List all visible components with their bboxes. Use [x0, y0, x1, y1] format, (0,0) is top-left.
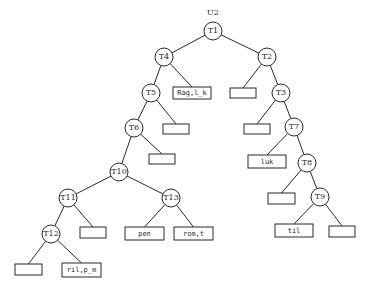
edge-t2-t3 [270, 65, 277, 84]
edge-t9-l_t9b [325, 204, 342, 226]
leaf-label: ril,p_m [62, 265, 101, 275]
edge-t11-t12 [55, 206, 64, 226]
leaf-box-l_t3 [244, 124, 270, 134]
leaf-label: luk [248, 157, 286, 167]
edge-t5-t6 [138, 101, 147, 120]
edge-t8-t9 [310, 171, 317, 188]
edge-t6-t10 [122, 137, 131, 164]
edge-t3-l_t3 [257, 100, 275, 124]
tree-diagram: U2 T1T4T2T5T3T6T7T10T8T11T13T9T12Rag,l_k… [0, 0, 366, 288]
leaf-box-l_t8 [268, 193, 295, 204]
leaf-box-l_t9b [329, 226, 355, 237]
edge-t4-t5 [154, 65, 161, 84]
leaf-box-l_t5 [163, 124, 189, 134]
leaf-box-l_t11 [80, 227, 106, 238]
node-label: T7 [284, 122, 304, 132]
node-label: T12 [41, 229, 61, 239]
node-label: T13 [161, 193, 181, 203]
edge-t4-l_t4 [170, 64, 192, 87]
leaf-box-l_t12a [15, 264, 42, 275]
node-label: T9 [310, 192, 330, 202]
leaf-label: Rag,l_k [173, 88, 211, 98]
edge-t12-l_t12a [29, 241, 46, 264]
node-label: T6 [124, 123, 144, 133]
node-label: T3 [271, 88, 291, 98]
leaf-label: pen [125, 229, 164, 239]
edge-t11-l_t11 [74, 205, 93, 227]
node-label: T8 [297, 158, 317, 168]
node-label: T10 [109, 167, 129, 177]
edge-t12-l_t12b [58, 240, 82, 263]
edge-t2-l_t2 [243, 64, 261, 88]
edge-t13-l_t13b [177, 205, 194, 227]
edge-t7-t8 [297, 135, 304, 154]
tree-canvas [0, 0, 366, 288]
edge-t7-l_t7 [267, 133, 288, 155]
edge-t5-l_t5 [157, 100, 176, 124]
edge-t13-l_t13a [145, 205, 165, 227]
edge-t3-t7 [284, 101, 291, 118]
leaf-label: rom,t [174, 229, 213, 239]
edge-t6-l_t6 [141, 134, 162, 154]
node-label: T11 [58, 193, 78, 203]
leaf-box-l_t2 [230, 88, 256, 98]
leaf-box-l_t6 [149, 154, 175, 164]
edge-t8-l_t8 [282, 170, 302, 193]
edge-t1-t2 [221, 35, 259, 53]
node-label: T5 [141, 88, 161, 98]
edge-t10-t11 [76, 176, 111, 194]
node-label: T4 [154, 52, 174, 62]
shapes-layer [15, 22, 355, 277]
tree-title: U2 [203, 8, 223, 18]
node-label: T1 [203, 26, 223, 36]
edge-t10-t13 [127, 176, 163, 194]
leaf-label: til [275, 226, 313, 236]
node-label: T2 [257, 52, 277, 62]
edge-t9-l_t9a [294, 203, 314, 224]
edge-t1-t4 [172, 35, 205, 53]
